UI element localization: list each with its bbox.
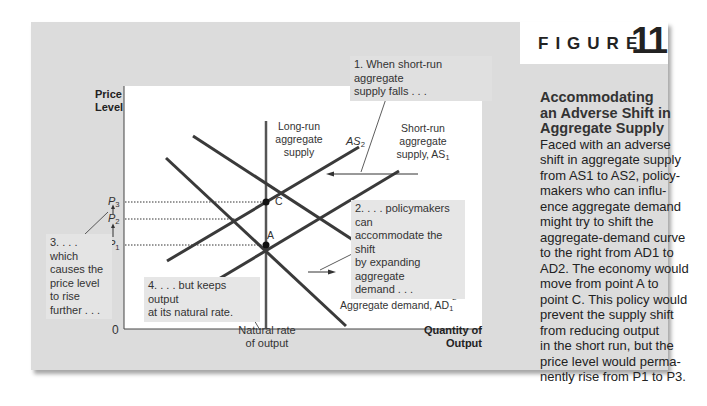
lras-label: Long-run aggregate supply [270, 120, 328, 159]
natural-rate-line2: of output [232, 337, 302, 350]
point-c-marker [263, 199, 270, 206]
natural-rate-line1: Natural rate [232, 324, 302, 337]
as2-label: AS2 [346, 135, 365, 151]
note-1: 1. When short-run aggregate supply falls… [350, 56, 492, 101]
origin-label: 0 [112, 324, 119, 337]
x-axis-label-line2: Output [412, 337, 482, 350]
natural-rate-label: Natural rate of output [232, 324, 302, 350]
caption-title: Accommodating an Adverse Shift in Aggreg… [540, 90, 700, 137]
point-a-label: A [267, 229, 274, 242]
y-axis-label-line1: Price [95, 88, 121, 101]
point-c-label: C [275, 195, 283, 208]
caption-body: Faced with an adverse shift in aggregate… [540, 137, 700, 385]
sras-label: Short-run aggregate supply, AS1 [394, 122, 452, 164]
point-a-marker [263, 242, 270, 249]
note-3: 3. . . . which causes the price level to… [46, 234, 112, 319]
x-axis-label: Quantity of Output [412, 324, 482, 350]
x-axis-label-line1: Quantity of [412, 324, 482, 337]
figure-caption: Accommodating an Adverse Shift in Aggreg… [540, 90, 700, 385]
p3-label: P3 [108, 195, 120, 211]
y-axis-label-line2: Level [95, 101, 121, 114]
note-4: 4. . . . but keeps output at its natural… [144, 277, 260, 322]
note4-leader-spacer [165, 266, 212, 276]
ad1-label: Aggregate demand, AD1 [340, 299, 453, 315]
y-axis-label: Price Level [95, 88, 121, 114]
supply-shift-arrowhead [326, 172, 334, 177]
p2-label: P2 [108, 212, 120, 228]
demand-shift-arrowhead [328, 270, 336, 275]
note3-leader [84, 212, 108, 235]
note-2: 2. . . . policymakers can accommodate th… [351, 200, 465, 299]
